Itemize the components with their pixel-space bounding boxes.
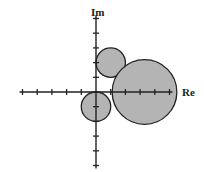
x-axis-label: Re (182, 86, 195, 98)
y-axis-label: Im (91, 6, 104, 18)
complex-plane-diagram: Im Re (0, 0, 204, 172)
axes (20, 16, 173, 169)
